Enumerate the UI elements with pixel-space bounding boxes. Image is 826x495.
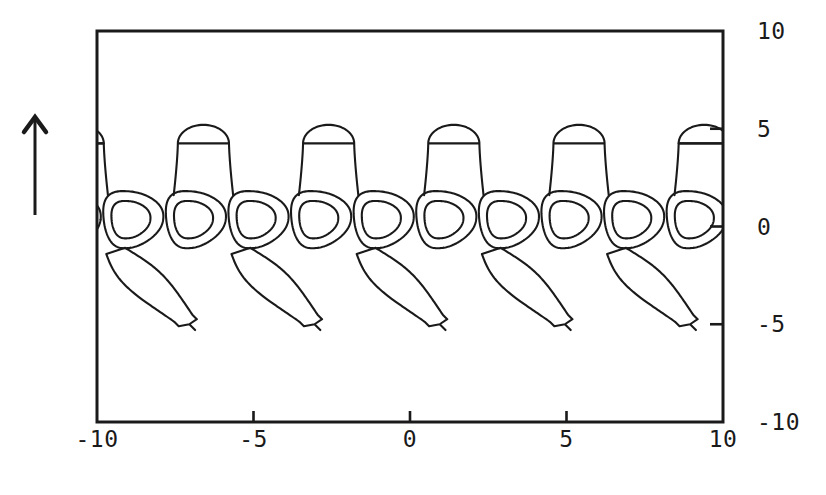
upward-lobe-contour: [299, 125, 358, 195]
inner-oval-contour: [424, 201, 463, 238]
x-axis-tick-label: -10: [75, 428, 118, 451]
y-axis-tick-label: 5: [757, 117, 771, 140]
x-axis-tick-label: 0: [403, 428, 417, 451]
contour-lines-group: [97, 125, 723, 330]
upward-lobe-contour: [97, 143, 108, 195]
inner-oval-contour: [675, 201, 714, 238]
plot-frame: [97, 31, 723, 422]
upward-lobe-contour: [674, 143, 723, 195]
inner-oval-contour: [111, 201, 150, 238]
downward-tail-contour: [607, 248, 698, 330]
downward-tail-contour: [482, 248, 573, 330]
x-axis-tick-label: 5: [559, 428, 573, 451]
contour-plot-canvas: [0, 0, 826, 495]
x-axis-tick-label: -5: [239, 428, 268, 451]
upward-lobe-contour: [174, 125, 233, 195]
y-axis-tick-label: -5: [757, 313, 786, 336]
inner-oval-contour: [299, 201, 338, 238]
downward-tail-contour: [232, 248, 323, 330]
inner-oval-contour: [487, 201, 526, 238]
inner-oval-contour: [362, 201, 401, 238]
inner-oval-contour: [174, 201, 213, 238]
contour-figure: -10-50510 1050-5-10: [0, 0, 826, 495]
inner-oval-contour: [612, 201, 651, 238]
y-axis-tick-label: -10: [757, 411, 800, 434]
plot-frame-group: [97, 31, 723, 422]
y-axis-tick-label: 0: [757, 215, 771, 238]
inner-oval-contour: [237, 201, 276, 238]
downward-tail-contour: [106, 248, 197, 330]
downward-tail-contour: [357, 248, 448, 330]
up-arrow-icon: [24, 117, 46, 215]
upward-lobe-contour: [549, 125, 608, 195]
x-axis-tick-label: 10: [709, 428, 738, 451]
y-axis-tick-label: 10: [757, 20, 786, 43]
upward-lobe-contour: [424, 125, 483, 195]
axis-ticks-group: [254, 129, 724, 422]
inner-oval-contour: [550, 201, 589, 238]
